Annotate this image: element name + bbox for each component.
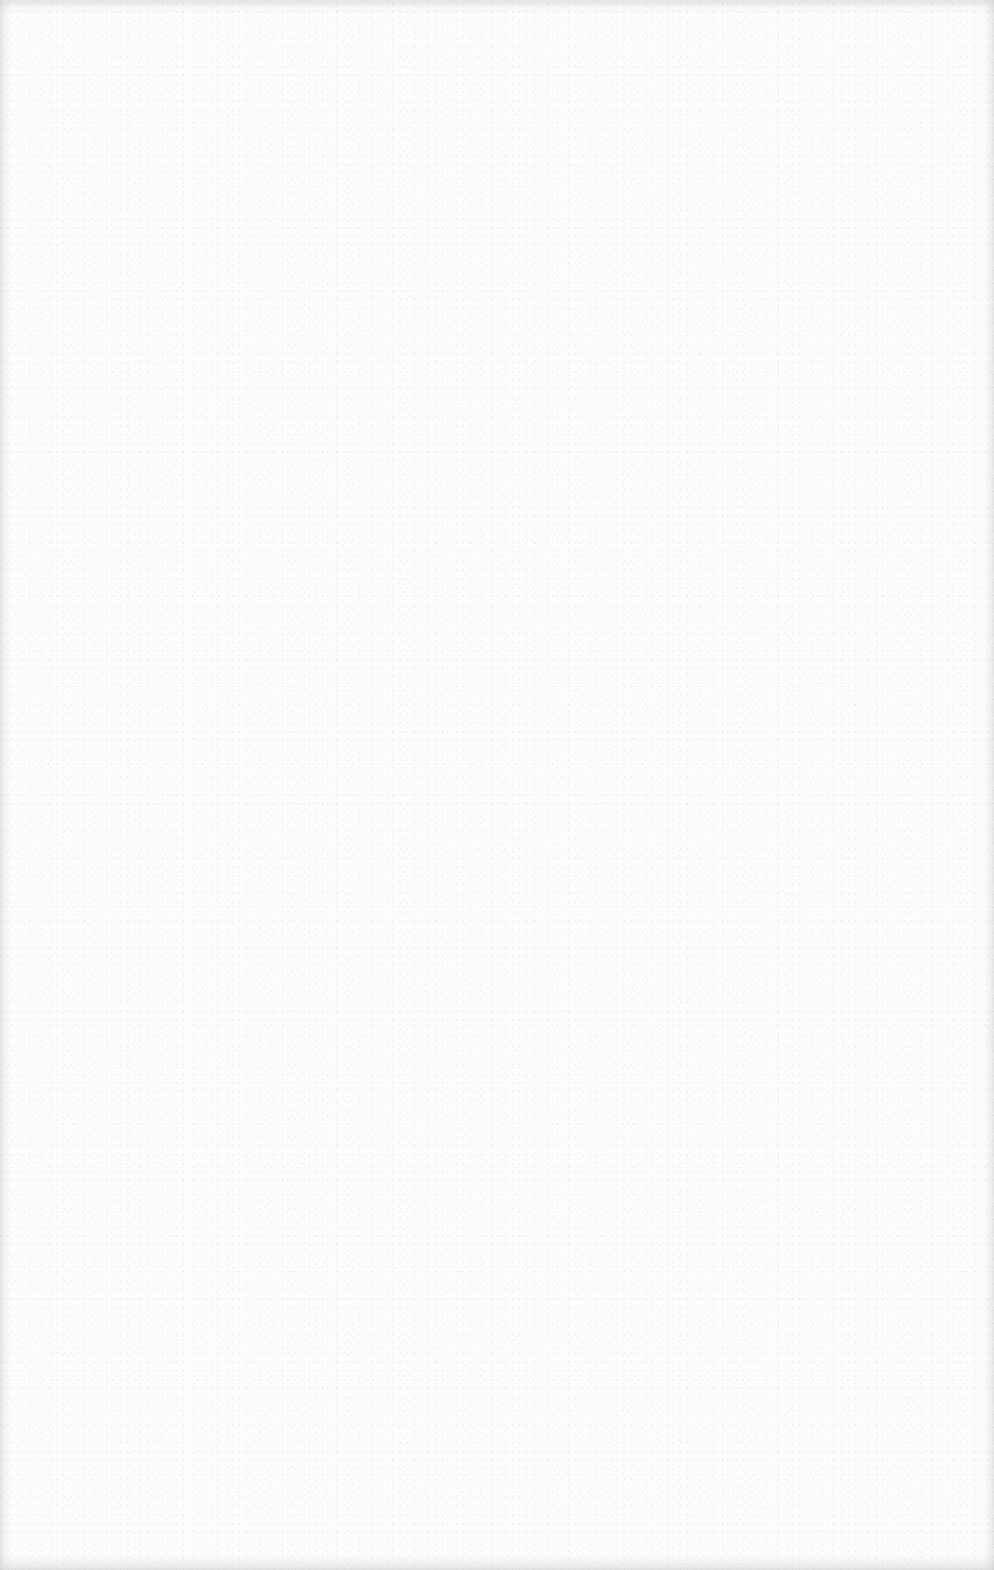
blank-page (0, 0, 994, 1570)
paper-grain-texture (0, 0, 994, 1570)
page-edge-shading (0, 0, 994, 1570)
